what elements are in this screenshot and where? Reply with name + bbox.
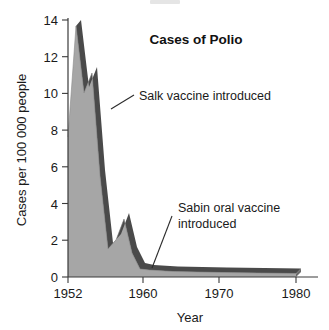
area-fill-dark	[76, 20, 301, 274]
sabin-annotation-label-line2: introduced	[178, 217, 236, 231]
x-axis-label: Year	[177, 310, 204, 325]
y-tick-label-10: 10	[44, 86, 58, 101]
x-tick-label-1980: 1980	[282, 286, 311, 301]
x-tick-label-1952: 1952	[54, 286, 83, 301]
x-axis-ticks: 1952 1960 1970 1980	[54, 277, 311, 301]
scan-artifact	[150, 0, 180, 4]
sabin-leader-line	[152, 216, 172, 268]
y-tick-label-2: 2	[51, 233, 58, 248]
salk-annotation-label: Salk vaccine introduced	[139, 89, 271, 103]
chart-title: Cases of Polio	[149, 32, 242, 47]
y-tick-label-4: 4	[51, 197, 58, 212]
chart-area-group	[68, 20, 301, 277]
salk-leader-line	[111, 95, 134, 109]
annotation-sabin: Sabin oral vaccine introduced	[152, 201, 280, 268]
y-tick-label-6: 6	[51, 160, 58, 175]
annotation-salk: Salk vaccine introduced	[111, 89, 271, 109]
y-axis-ticks: 14 12 10 8 6 4 2 0	[44, 13, 68, 285]
sabin-annotation-label-line1: Sabin oral vaccine	[178, 201, 280, 215]
y-tick-label-8: 8	[51, 123, 58, 138]
y-tick-label-14: 14	[44, 13, 58, 28]
x-tick-label-1970: 1970	[205, 286, 234, 301]
polio-cases-chart: 14 12 10 8 6 4 2 0 1952 1960 1970 1980 Y…	[0, 0, 329, 330]
y-axis-label: Cases per 100 000 people	[14, 74, 29, 227]
y-tick-label-12: 12	[44, 50, 58, 65]
x-tick-label-1960: 1960	[129, 286, 158, 301]
y-tick-label-0: 0	[51, 270, 58, 285]
chart-svg: 14 12 10 8 6 4 2 0 1952 1960 1970 1980 Y…	[0, 0, 329, 330]
